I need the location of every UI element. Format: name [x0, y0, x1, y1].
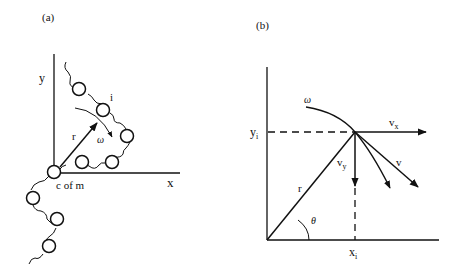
radius-label: r	[72, 130, 76, 142]
panel-b: (b) yi xi r θ ω vx vy v	[250, 19, 439, 261]
y-axis-label: y	[39, 71, 45, 85]
v-arrow	[355, 132, 418, 187]
xi-label: xi	[349, 245, 358, 261]
x-axis-label: x	[167, 175, 174, 190]
r-label: r	[298, 182, 302, 194]
polymer-beads	[27, 83, 134, 253]
vx-label: vx	[389, 116, 399, 131]
vy-label: vy	[337, 156, 347, 171]
yi-label: yi	[250, 125, 259, 141]
v-label: v	[396, 156, 402, 168]
theta-label: θ	[311, 215, 316, 226]
theta-arc	[298, 220, 309, 240]
bead-center-of-mass	[48, 166, 61, 179]
panel-a-label: (a)	[42, 11, 55, 24]
figure: (a) y x	[0, 0, 460, 271]
panel-a: (a) y x	[27, 11, 181, 264]
bead	[73, 83, 86, 96]
panel-b-label: (b)	[256, 19, 269, 32]
origin-label: c of m	[56, 179, 85, 191]
bead-i-label: i	[110, 91, 113, 103]
omega-label: ω	[304, 94, 311, 105]
bead	[121, 130, 134, 143]
bead	[106, 156, 119, 169]
bead	[76, 156, 89, 169]
bead	[27, 192, 40, 205]
bead-i	[97, 104, 110, 117]
omega-label: ω	[97, 134, 104, 145]
bead	[43, 240, 56, 253]
bead	[51, 213, 64, 226]
